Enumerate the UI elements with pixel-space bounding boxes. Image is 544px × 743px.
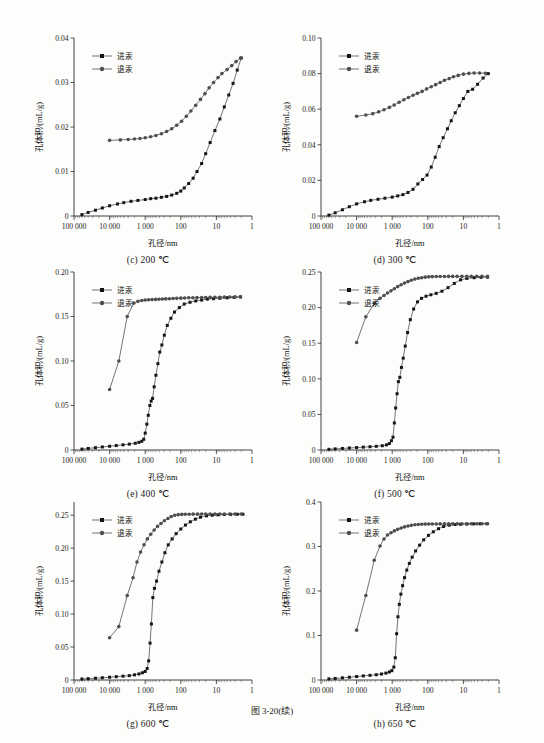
data-point: [486, 275, 490, 279]
data-point: [438, 81, 442, 85]
data-point: [398, 603, 401, 606]
y-axis-title: 孔体积/(mL/g): [281, 566, 291, 616]
legend: 进汞退汞: [92, 516, 133, 538]
data-point: [427, 534, 430, 537]
data-point: [460, 522, 464, 526]
data-point: [397, 100, 401, 104]
data-point: [396, 194, 399, 197]
data-point: [87, 211, 90, 214]
data-point: [183, 186, 186, 189]
y-tick-label: 0.02: [55, 123, 68, 132]
data-point: [225, 68, 229, 72]
data-point: [207, 86, 211, 90]
x-tick-label: 10 000: [99, 222, 120, 231]
legend-label: 退汞: [364, 65, 380, 74]
data-point: [434, 275, 438, 279]
x-tick-label: 10: [213, 222, 221, 231]
y-tick-label: 0.10: [302, 34, 315, 43]
data-point: [446, 127, 449, 130]
series-line-circle: [357, 524, 488, 630]
data-point: [413, 277, 417, 281]
data-point: [168, 297, 172, 301]
data-point: [476, 83, 479, 86]
data-point: [478, 71, 482, 75]
data-point: [87, 447, 90, 450]
data-point: [364, 315, 368, 319]
data-point: [482, 77, 485, 80]
data-point: [122, 201, 125, 204]
plot-area-f: 00.050.100.150.200.25100 00010 0001 0001…: [275, 258, 515, 486]
data-point: [170, 127, 174, 131]
data-point: [453, 282, 456, 285]
data-point: [191, 512, 195, 516]
x-tick-label: 10 000: [99, 456, 120, 465]
x-tick-label: 100: [175, 686, 187, 695]
chart-panel-e: 00.050.100.150.20100 00010 0001 00010010…: [28, 258, 268, 499]
data-point: [151, 397, 154, 400]
data-point: [203, 92, 207, 96]
data-point: [440, 290, 443, 293]
data-point: [348, 205, 351, 208]
data-point: [372, 559, 376, 563]
data-point: [167, 543, 170, 546]
y-axis-title: 孔体积/(mL/g): [281, 336, 291, 386]
data-point: [131, 576, 135, 580]
data-point: [166, 517, 170, 521]
x-tick-label: 10 000: [346, 456, 367, 465]
data-point: [484, 71, 488, 75]
data-point: [94, 446, 97, 449]
y-tick-label: 0: [312, 446, 316, 455]
data-point: [447, 286, 450, 289]
data-point: [145, 423, 148, 426]
legend-label: 进汞: [364, 516, 380, 525]
y-tick-label: 0.25: [302, 268, 315, 277]
data-point: [385, 443, 388, 446]
data-point: [438, 145, 441, 148]
data-point: [152, 528, 156, 532]
data-point: [175, 532, 178, 535]
data-point: [128, 443, 131, 446]
x-tick-label: 10: [460, 686, 468, 695]
legend: 进汞退汞: [339, 286, 380, 308]
data-point: [136, 300, 140, 304]
y-tick-label: 0.04: [302, 141, 315, 150]
data-point: [406, 331, 409, 334]
figure-page: 00.010.020.030.04100 00010 0001 00010010…: [0, 0, 544, 743]
data-point: [218, 295, 222, 299]
x-tick-label: 100 000: [309, 456, 334, 465]
y-tick-label: 0.25: [55, 511, 68, 520]
data-point: [369, 445, 372, 448]
data-point: [189, 301, 192, 304]
x-tick-label: 10 000: [99, 686, 120, 695]
data-point: [395, 632, 398, 635]
data-point: [425, 295, 428, 298]
y-tick-label: 0.08: [302, 69, 315, 78]
panel-caption-g: (g) 600 ℃: [28, 718, 268, 729]
data-point: [396, 615, 399, 618]
data-point: [327, 214, 330, 217]
data-point: [80, 448, 83, 451]
data-point: [369, 199, 372, 202]
data-point: [423, 275, 427, 279]
data-point: [447, 275, 451, 279]
y-tick-label: 0: [312, 212, 316, 221]
data-point: [364, 113, 368, 117]
data-point: [196, 512, 200, 516]
data-point: [386, 533, 390, 537]
data-point: [362, 674, 365, 677]
data-point: [187, 512, 191, 516]
data-point: [391, 436, 394, 439]
data-point: [447, 77, 451, 81]
data-point: [386, 291, 390, 295]
data-point: [399, 526, 403, 530]
data-point: [200, 512, 204, 516]
data-point: [409, 318, 412, 321]
data-point: [410, 524, 414, 528]
data-point: [403, 576, 406, 579]
data-point: [185, 115, 189, 119]
data-point: [375, 445, 378, 448]
data-point: [223, 512, 227, 516]
x-tick-label: 1: [497, 686, 501, 695]
data-point: [392, 103, 396, 107]
data-point: [80, 213, 83, 216]
